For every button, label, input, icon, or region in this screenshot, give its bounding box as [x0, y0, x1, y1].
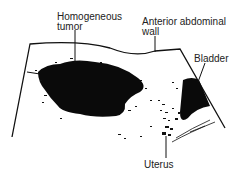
uterus-label: Uterus — [144, 160, 173, 170]
tumor-label-line2: tumor — [57, 22, 83, 32]
diagram-drawing — [0, 0, 238, 183]
ultrasound-diagram: Homogeneous tumor Anterior abdominal wal… — [0, 0, 238, 183]
tumor-mass — [38, 60, 144, 116]
bladder — [180, 78, 210, 120]
uterus-speckle — [158, 100, 180, 136]
bladder-label: Bladder — [194, 54, 228, 64]
wall-label-line2: wall — [142, 27, 159, 37]
tissue-streaks — [172, 120, 215, 142]
bladder-leader — [198, 63, 205, 82]
